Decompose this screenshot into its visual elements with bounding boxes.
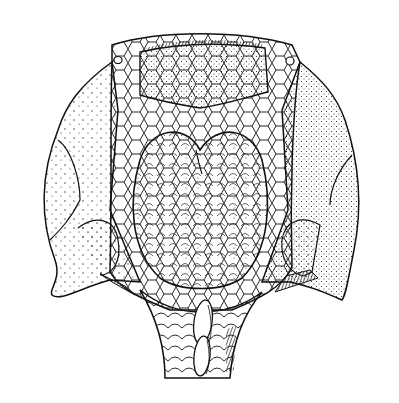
head-shield-illustration: [0, 0, 399, 403]
median-dorsal-field: [133, 132, 267, 288]
orbit-right: [286, 57, 294, 65]
orbit-left: [114, 57, 122, 64]
